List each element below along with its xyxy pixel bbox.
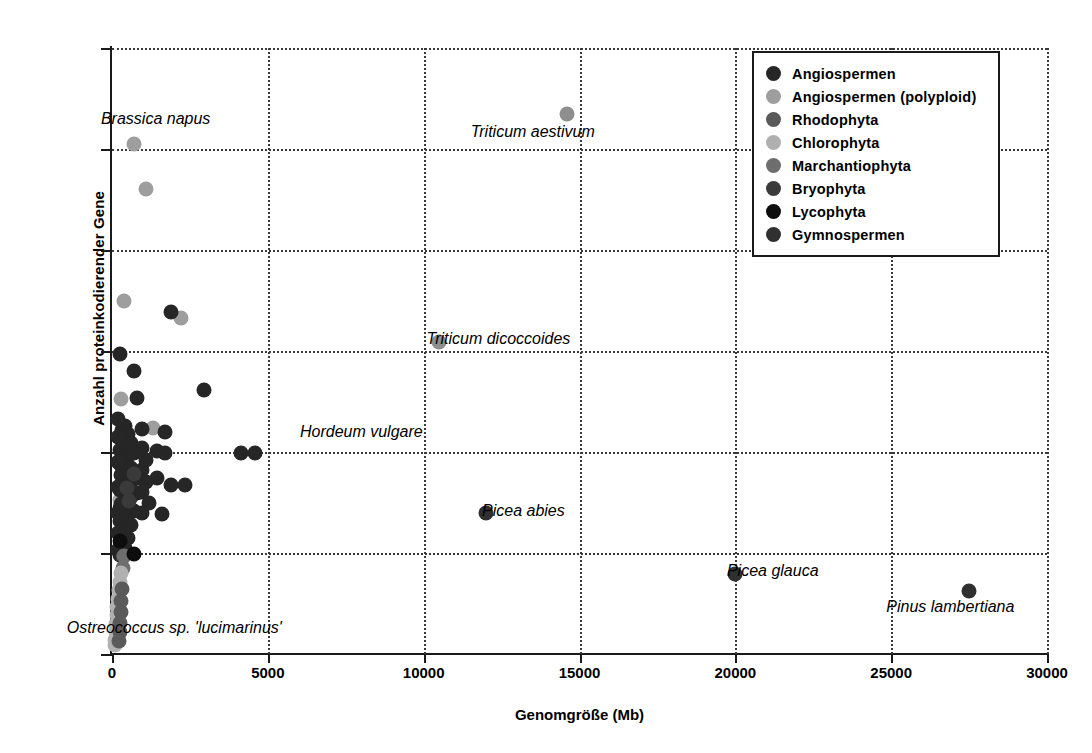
legend-label: Angiospermen [792,66,896,82]
data-point [110,429,125,444]
data-point [139,475,154,490]
data-point [139,452,154,467]
point-annotation: Triticum dicoccoides [427,330,571,348]
data-point [112,346,127,361]
tick-mark-y [101,149,112,151]
tick-mark-y [101,452,112,454]
data-point [110,505,125,520]
point-annotation: Picea glauca [727,562,819,580]
legend-swatch-icon [766,66,781,81]
data-point [126,136,141,151]
legend-label: Chlorophyta [792,135,880,151]
chart-canvas: Anzahl proteinkodierender Gene Genomgröß… [0,0,1092,753]
data-point [234,445,249,460]
legend-item-angiospermen-polyploid[interactable]: Angiospermen (polyploid) [766,85,988,108]
tick-mark-x [1047,654,1049,663]
data-point [126,467,141,482]
legend-item-angiospermen[interactable]: Angiospermen [766,62,988,85]
legend-item-rhodophyta[interactable]: Rhodophyta [766,108,988,131]
legend-item-lycophyta[interactable]: Lycophyta [766,200,988,223]
data-point [178,478,193,493]
legend-swatch-icon [766,89,781,104]
data-point [126,547,141,562]
gridline-vertical [268,48,270,654]
legend-item-marchantiophyta[interactable]: Marchantiophyta [766,154,988,177]
data-point [117,293,132,308]
legend-label: Angiospermen (polyploid) [792,89,976,105]
point-annotation: Hordeum vulgare [300,423,423,441]
data-point [126,364,141,379]
point-annotation: Pinus lambertiana [886,598,1014,616]
data-point [248,446,263,461]
legend-swatch-icon [766,158,781,173]
legend-swatch-icon [766,204,781,219]
gridline-vertical [1047,48,1049,654]
tick-mark-x [580,654,582,663]
tick-label-x: 5000 [223,664,313,681]
data-point [560,106,575,121]
data-point [154,506,169,521]
legend-label: Rhodophyta [792,112,879,128]
gridline-vertical [424,48,426,654]
tick-label-x: 20000 [690,664,780,681]
tick-label-x: 10000 [379,664,469,681]
y-axis-title: Anzahl proteinkodierender Gene [90,159,107,459]
tick-mark-y [101,654,112,656]
legend-label: Lycophyta [792,204,866,220]
legend-label: Bryophyta [792,181,866,197]
tick-mark-x [424,654,426,663]
data-point [962,583,977,598]
legend-item-bryophyta[interactable]: Bryophyta [766,177,988,200]
data-point [122,494,137,509]
tick-label-x: 25000 [846,664,936,681]
legend-swatch-icon [766,112,781,127]
data-point [114,391,129,406]
tick-label-x: 30000 [1002,664,1092,681]
data-point [196,383,211,398]
data-point [157,424,172,439]
tick-label-x: 15000 [535,664,625,681]
data-point [142,495,157,510]
legend: AngiospermenAngiospermen (polyploid)Rhod… [752,51,1000,257]
tick-mark-y [101,250,112,252]
data-point [157,446,172,461]
tick-label-x: 0 [67,664,157,681]
legend-label: Marchantiophyta [792,158,911,174]
data-point [110,455,125,470]
data-point [139,182,154,197]
tick-mark-y [101,351,112,353]
point-annotation: Ostreococcus sp. 'lucimarinus' [67,619,282,637]
data-point [110,412,125,427]
data-point [112,534,127,549]
legend-swatch-icon [766,135,781,150]
legend-swatch-icon [766,227,781,242]
data-point [129,390,144,405]
legend-label: Gymnospermen [792,227,905,243]
tick-mark-x [891,654,893,663]
legend-item-gymnospermen[interactable]: Gymnospermen [766,223,988,246]
tick-mark-x [112,654,114,663]
tick-mark-y [101,48,112,50]
tick-mark-x [735,654,737,663]
data-point [164,304,179,319]
point-annotation: Triticum aestivum [471,123,595,141]
data-point [164,478,179,493]
data-point [134,421,149,436]
legend-item-chlorophyta[interactable]: Chlorophyta [766,131,988,154]
point-annotation: Picea abies [482,502,565,520]
point-annotation: Brassica napus [101,110,210,128]
legend-swatch-icon [766,181,781,196]
tick-mark-x [268,654,270,663]
x-axis-title: Genomgröße (Mb) [112,706,1047,723]
